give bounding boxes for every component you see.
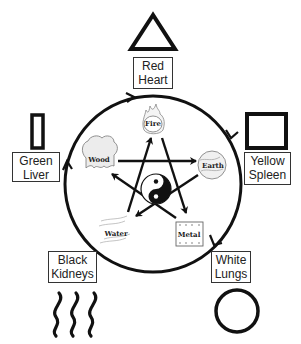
square-icon [247, 114, 286, 148]
tall-rectangle-icon [32, 115, 43, 148]
color-name: White [212, 253, 250, 267]
label-red-heart: Red Heart [133, 57, 173, 89]
label-green-liver: Green Liver [12, 152, 60, 182]
element-label-water: Water [103, 229, 127, 238]
organ-name: Lungs [212, 267, 250, 281]
yin-yang-icon [141, 174, 171, 204]
fire-element: Fire [143, 104, 164, 134]
element-label-fire: Fire [145, 119, 161, 128]
color-name: Red [134, 59, 172, 73]
color-name: Black [49, 253, 96, 267]
water-element: Water [99, 216, 130, 243]
triangle-icon [131, 15, 175, 49]
circle-shape-icon [216, 290, 258, 332]
metal-element: Metal [176, 222, 203, 246]
element-label-wood: Wood [87, 155, 110, 164]
organ-name: Liver [13, 168, 59, 182]
organ-name: Spleen [245, 168, 290, 182]
color-name: Yellow [245, 154, 290, 168]
color-name: Green [13, 154, 59, 168]
earth-element: Earth [198, 151, 226, 179]
wavy-lines-icon [54, 293, 96, 336]
label-yellow-spleen: Yellow Spleen [244, 152, 291, 185]
organ-name: Kidneys [49, 267, 96, 281]
label-black-kidneys: Black Kidneys [48, 251, 97, 283]
organ-name: Heart [134, 73, 172, 87]
wood-element: Wood [82, 136, 117, 168]
element-label-earth: Earth [202, 161, 224, 170]
label-white-lungs: White Lungs [211, 251, 251, 283]
element-label-metal: Metal [178, 230, 201, 239]
